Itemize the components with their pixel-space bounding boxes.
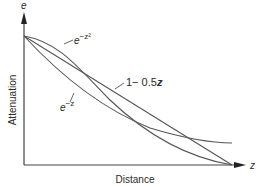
curve-exponential: [24, 36, 232, 143]
y-axis-symbol: e: [21, 0, 27, 11]
linear-label: 1− 0.5z: [126, 76, 163, 88]
attenuation-diagram: e z Distance Attenuation e−z² 1− 0.5z e−…: [0, 0, 270, 187]
x-axis-title: Distance: [116, 174, 155, 185]
gauss-leader-line: [64, 40, 73, 44]
gauss-label: e−z²: [74, 32, 91, 46]
x-axis-symbol: z: [249, 160, 255, 171]
x-axis-arrow-icon: [234, 162, 246, 168]
linear-leader-line: [115, 83, 124, 89]
y-axis-title: Attenuation: [7, 75, 18, 126]
curve-linear: [24, 36, 232, 165]
y-axis-arrow-icon: [21, 12, 27, 24]
exp-label: e−z: [60, 99, 74, 113]
